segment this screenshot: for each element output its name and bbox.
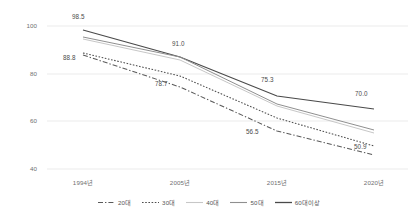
- legend-label-20s: 20대: [118, 198, 131, 207]
- x-axis-tick-1994: 1994년: [53, 178, 113, 187]
- legend-item-30s[interactable]: 30대: [142, 198, 175, 207]
- chart-container: 100 80 60 40 1994년 2005년 2015년 2020년 98.…: [0, 0, 418, 222]
- data-label-91-0: 91.0: [172, 40, 185, 47]
- legend-swatch-dash-dot-icon: [98, 199, 115, 206]
- legend-item-60plus[interactable]: 60대이상: [275, 198, 320, 207]
- legend-item-20s[interactable]: 20대: [98, 198, 131, 207]
- legend-label-30s: 30대: [162, 198, 175, 207]
- legend-item-50s[interactable]: 50대: [230, 198, 263, 207]
- x-axis-tick-2015: 2015년: [247, 178, 307, 187]
- x-axis-tick-2005: 2005년: [150, 178, 210, 187]
- data-label-78-7: 78.7: [155, 80, 168, 87]
- chart-plot-area: [0, 0, 418, 222]
- data-label-50-9: 50.9: [354, 143, 367, 150]
- data-label-98-5: 98.5: [72, 13, 85, 20]
- series-20s: [83, 55, 374, 155]
- y-axis-tick-80: 80: [13, 70, 37, 77]
- legend-swatch-dotted-icon: [142, 199, 159, 206]
- series-40s: [83, 39, 374, 133]
- data-label-56-5: 56.5: [246, 128, 259, 135]
- legend-swatch-solid-mid-icon: [230, 199, 247, 206]
- y-axis-tick-40: 40: [13, 165, 37, 172]
- data-label-70-0: 70.0: [355, 90, 368, 97]
- legend-swatch-solid-dark-icon: [275, 199, 292, 206]
- legend-label-60plus: 60대이상: [295, 198, 320, 207]
- legend-swatch-solid-light-icon: [186, 199, 203, 206]
- data-label-75-3: 75.3: [261, 76, 274, 83]
- x-axis-tick-2020: 2020년: [344, 178, 404, 187]
- legend-label-40s: 40대: [206, 198, 219, 207]
- legend-label-50s: 50대: [250, 198, 263, 207]
- y-axis-tick-100: 100: [13, 22, 37, 29]
- data-label-88-8: 88.8: [63, 54, 76, 61]
- chart-legend: 20대 30대 40대 50대 60대이상: [0, 198, 418, 207]
- y-axis-tick-60: 60: [13, 117, 37, 124]
- series-30s: [83, 53, 374, 146]
- legend-item-40s[interactable]: 40대: [186, 198, 219, 207]
